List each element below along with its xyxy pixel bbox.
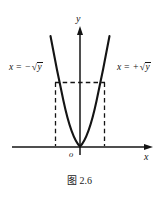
- y-axis-arrowhead: [77, 26, 83, 35]
- right-branch-radicand: y: [145, 62, 151, 73]
- x-axis-label: x: [144, 152, 148, 162]
- figure-caption: 图 2.6: [0, 175, 159, 187]
- right-branch-radical: √y: [139, 62, 151, 73]
- left-branch-label: x = −√y: [9, 62, 43, 73]
- y-axis-label: y: [76, 14, 80, 24]
- left-branch-radical: √y: [31, 62, 43, 73]
- left-branch-radicand: y: [37, 62, 43, 73]
- parabola-plot: [0, 0, 159, 199]
- right-branch-label: x = +√y: [117, 62, 151, 73]
- x-axis-arrowhead: [144, 144, 153, 150]
- left-branch-label-prefix: x = −: [9, 62, 31, 72]
- origin-label: o: [69, 150, 73, 159]
- right-branch-label-prefix: x = +: [117, 62, 139, 72]
- figure-container: x = −√y x = +√y y x o 图 2.6: [0, 0, 159, 199]
- y-axis: [77, 26, 83, 155]
